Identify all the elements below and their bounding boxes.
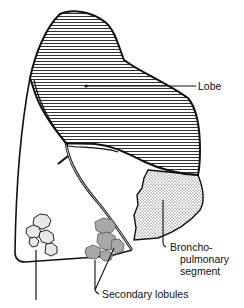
label-segment-3: segment	[180, 265, 220, 277]
label-segment-2: pulmonary	[180, 253, 229, 265]
lobule-cluster-left	[26, 214, 57, 256]
lobe-shape	[30, 11, 200, 175]
label-secondary-lobules: Secondary lobules	[102, 288, 188, 300]
label-lobe: Lobe	[198, 80, 221, 92]
small-branch	[58, 156, 68, 164]
label-segment-1: Broncho-	[170, 241, 213, 253]
bronchopulmonary-segment	[134, 170, 203, 240]
